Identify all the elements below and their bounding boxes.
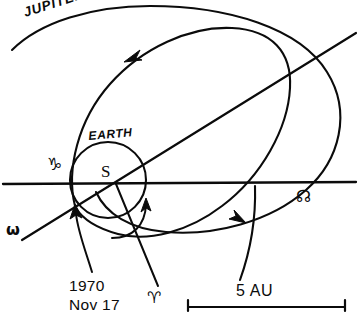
perihelion-date-year: 1970 xyxy=(69,276,120,295)
jupiter-orbit-direction-arrow xyxy=(124,50,142,62)
ecliptic-node-line xyxy=(3,182,356,184)
perihelion-date-day: Nov 17 xyxy=(69,295,120,314)
scale-bar xyxy=(188,300,345,311)
comet-orbit-direction-arrow xyxy=(229,210,246,223)
comet-orbit-descending-branch xyxy=(240,186,255,280)
perihelion-symbol-icon: ♑ xyxy=(47,156,62,173)
ascending-node-symbol-icon: ☊ xyxy=(296,188,311,205)
sun-marker-label: S xyxy=(101,163,110,180)
jupiter-orbit xyxy=(12,6,340,233)
line-of-apsides xyxy=(22,33,356,240)
comet-orbit-diagram: JUPITER EARTH S ♑ ☊ ω ♈ 1970 Nov 17 5 AU xyxy=(0,0,359,328)
perihelion-date-label: 1970 Nov 17 xyxy=(69,276,120,315)
vernal-equinox-symbol-icon: ♈ xyxy=(147,290,161,306)
argument-of-perihelion-symbol-icon: ω xyxy=(6,222,20,238)
earth-orbit-label: EARTH xyxy=(88,126,133,142)
scale-bar-label: 5 AU xyxy=(236,283,273,299)
